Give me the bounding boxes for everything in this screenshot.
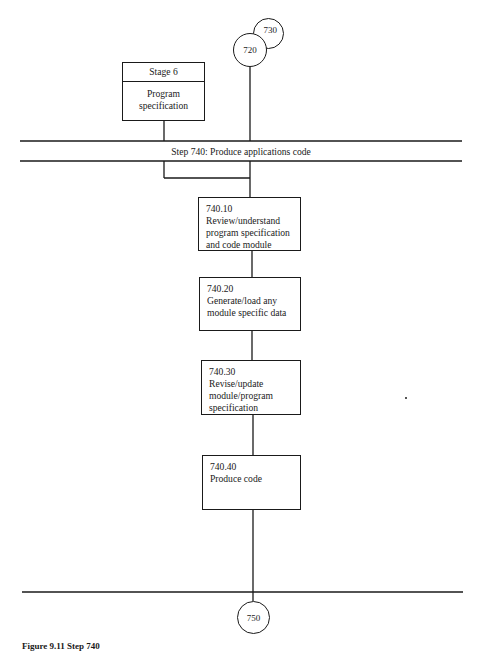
connector-720: 720 <box>233 33 267 67</box>
process-text: specification <box>209 402 300 414</box>
connector-730-label: 730 <box>264 25 278 35</box>
process-number: 740.20 <box>207 283 300 295</box>
step-740-band-label: Step 740: Produce applications code <box>20 143 462 160</box>
connector-720-label: 720 <box>243 45 257 55</box>
process-box-740-10: 740.10 Review/understand program specifi… <box>198 197 301 251</box>
stage-6-box: Stage 6 Program specification <box>122 62 205 121</box>
process-text: Produce code <box>210 473 300 485</box>
process-number: 740.10 <box>206 203 300 215</box>
scan-artifact <box>405 397 407 399</box>
figure-caption: Figure 9.11 Step 740 <box>22 641 100 651</box>
process-text: module/program <box>209 390 300 402</box>
stage-title: Stage 6 <box>123 63 204 82</box>
process-text: Generate/load any <box>207 295 300 307</box>
process-text: Revise/update <box>209 378 300 390</box>
stage-body-line: Program <box>123 88 204 100</box>
process-number: 740.30 <box>209 366 300 378</box>
connector-750: 750 <box>237 601 270 634</box>
stage-body-line: specification <box>123 100 204 112</box>
stage-body: Program specification <box>123 82 204 112</box>
process-box-740-30: 740.30 Revise/update module/program spec… <box>201 360 301 415</box>
process-box-740-20: 740.20 Generate/load any module specific… <box>199 277 301 331</box>
process-text: module specific data <box>207 307 300 319</box>
connector-750-label: 750 <box>247 613 261 623</box>
process-box-740-40: 740.40 Produce code <box>202 455 301 510</box>
process-text: and code module <box>206 239 300 251</box>
process-text: Review/understand <box>206 215 300 227</box>
process-text: program specification <box>206 227 300 239</box>
process-number: 740.40 <box>210 461 300 473</box>
